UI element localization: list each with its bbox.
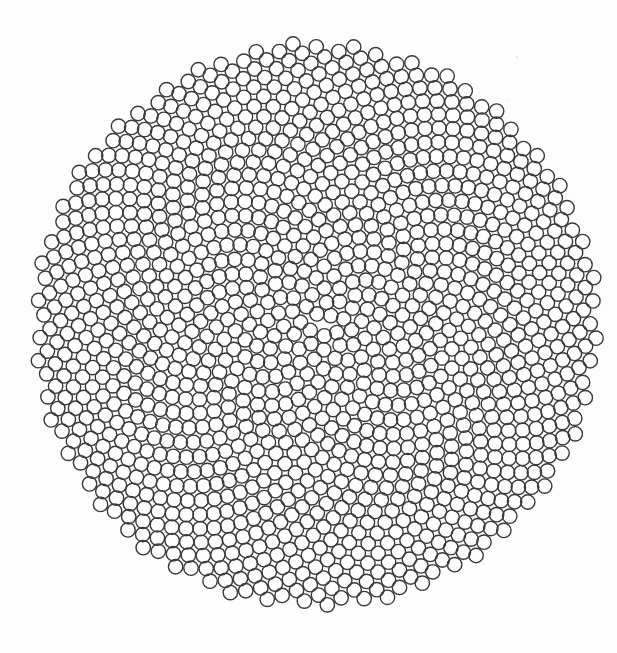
seed-circle: [193, 406, 207, 420]
seed-circle: [112, 233, 126, 247]
seed-circle: [139, 220, 153, 234]
seed-circle: [207, 492, 221, 506]
seed-circle: [529, 421, 543, 435]
seed-circle: [236, 407, 250, 421]
seed-circle: [182, 167, 196, 181]
seed-circle: [326, 511, 340, 525]
seed-circle: [359, 574, 373, 588]
seed-circle: [320, 598, 334, 612]
seed-circle: [213, 431, 227, 445]
seed-circle: [239, 267, 253, 281]
seed-circle: [319, 496, 333, 510]
seed-circle: [494, 493, 508, 507]
seed-circle: [374, 101, 388, 115]
seed-circle: [137, 329, 151, 343]
seed-circle: [586, 294, 600, 308]
seed-circle: [153, 447, 167, 461]
seed-circle: [538, 479, 552, 493]
seed-circle: [255, 283, 269, 297]
seed-circle: [541, 404, 555, 418]
seed-circle: [365, 259, 379, 273]
seed-circle: [400, 169, 414, 183]
seed-circle: [293, 355, 307, 369]
seed-circle: [430, 94, 444, 108]
seed-circle: [193, 314, 207, 328]
seed-circle: [288, 211, 302, 225]
seed-circle: [131, 106, 145, 120]
seed-circle: [446, 108, 460, 122]
seed-circle: [136, 540, 150, 554]
seed-circle: [454, 484, 468, 498]
seed-circle: [279, 397, 293, 411]
seed-circle: [443, 149, 457, 163]
seed-circle: [426, 565, 440, 579]
seed-circle: [137, 180, 151, 194]
seed-circle: [341, 353, 355, 367]
seed-circle: [102, 148, 116, 162]
seed-circle: [370, 381, 384, 395]
seed-circle: [118, 310, 132, 324]
seed-circle: [413, 424, 427, 438]
seed-circle: [460, 210, 474, 224]
seed-circle: [126, 483, 140, 497]
seed-circle: [496, 397, 510, 411]
seed-circle: [303, 323, 317, 337]
seed-circle: [344, 323, 358, 337]
seed-circle: [200, 291, 214, 305]
seed-circle: [209, 477, 223, 491]
seed-circle: [179, 521, 193, 535]
seed-circle: [228, 223, 242, 237]
seed-circle: [253, 182, 267, 196]
seed-circle: [359, 273, 373, 287]
seed-circle: [111, 119, 125, 133]
seed-circle: [325, 124, 339, 138]
seed-circle: [209, 320, 223, 334]
seed-circle: [540, 464, 554, 478]
seed-circle: [170, 479, 184, 493]
seed-circle: [300, 127, 314, 141]
seed-circle: [151, 95, 165, 109]
seed-circle: [220, 519, 234, 533]
seed-circle: [132, 344, 146, 358]
seed-circle: [109, 205, 123, 219]
seed-circle: [236, 393, 250, 407]
seed-circle: [196, 478, 210, 492]
seed-circle: [109, 491, 123, 505]
seed-circle: [503, 509, 517, 523]
seed-circle: [150, 531, 164, 545]
seed-circle: [423, 342, 437, 356]
seed-circle: [132, 136, 146, 150]
seed-circle: [196, 548, 210, 562]
seed-circle: [72, 165, 86, 179]
seed-circle: [434, 278, 448, 292]
seed-circle: [328, 351, 342, 365]
seed-circle: [427, 472, 441, 486]
seed-circle: [53, 313, 67, 327]
seed-circle: [489, 507, 503, 521]
seed-circle: [152, 209, 166, 223]
seed-circle: [207, 506, 221, 520]
seed-circle: [311, 375, 325, 389]
seed-circle: [334, 591, 348, 605]
seed-circle: [295, 433, 309, 447]
seed-circle: [396, 229, 410, 243]
seed-circle: [211, 210, 225, 224]
seed-circle: [463, 502, 477, 516]
seed-circle: [418, 136, 432, 150]
seed-circle: [488, 450, 502, 464]
seed-circle: [444, 439, 458, 453]
seed-circle: [391, 141, 405, 155]
seed-circle: [309, 118, 323, 132]
seed-circle: [473, 461, 487, 475]
seed-circle: [125, 295, 139, 309]
seed-circle: [504, 122, 518, 136]
seed-circle: [422, 301, 436, 315]
seed-circle: [327, 486, 341, 500]
seed-circle: [239, 181, 253, 195]
seed-circle: [96, 177, 110, 191]
seed-circle: [283, 148, 297, 162]
seed-circle: [475, 113, 489, 127]
seed-circle: [555, 320, 569, 334]
seed-circle: [151, 183, 165, 197]
seed-circle: [324, 308, 338, 322]
